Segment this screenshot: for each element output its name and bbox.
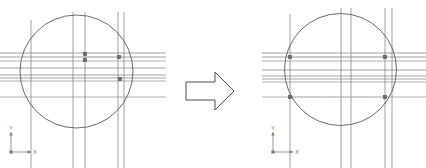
axis-x-arrowhead [28,150,31,153]
axis-origin-marker [9,150,12,153]
axis-y-label: Y [9,125,13,131]
axis-y-arrowhead [9,132,12,135]
axis-indicator: XY [271,125,299,155]
axis-x-arrowhead [290,150,293,153]
axis-y-arrowhead [271,132,274,135]
sketch-point[interactable] [383,95,386,98]
sketch-point[interactable] [383,55,386,58]
sketch-point[interactable] [117,55,120,58]
axis-x-label: X [33,149,37,155]
diagram-stage: XYXY [0,0,426,168]
sketch-point[interactable] [288,55,291,58]
axis-origin-marker [271,150,274,153]
sketch-circle[interactable] [20,15,133,128]
axis-y-label: Y [271,125,275,131]
transform-arrow [186,72,234,110]
after-sketch: XY [262,8,426,168]
axis-indicator: XY [9,125,37,155]
sketch-circle[interactable] [285,14,397,126]
sketch-point[interactable] [83,52,86,55]
sketch-point[interactable] [118,77,121,80]
sketch-point[interactable] [288,95,291,98]
before-sketch: XY [0,12,166,168]
diagram-canvas: XYXY [0,0,426,168]
sketch-point[interactable] [83,58,86,61]
axis-x-label: X [295,149,299,155]
